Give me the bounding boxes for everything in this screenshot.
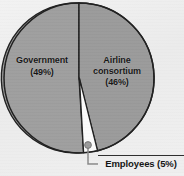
employees-dot-marker (85, 142, 92, 149)
slice-label-government-name: Government (9, 55, 75, 67)
slice-label-airline-consortium: Airline consortium (46%) (86, 55, 148, 88)
pie-chart-figure: Government (49%) Airline consortium (46%… (0, 0, 184, 176)
slice-label-airline-line1: Airline (86, 55, 148, 66)
slice-label-government-value: (49%) (9, 67, 75, 79)
slice-label-airline-value: (46%) (86, 77, 148, 88)
slice-label-airline-line2: consortium (86, 66, 148, 77)
pie-chart-svg (0, 0, 184, 176)
slice-callout-employees: Employees (5%) (98, 155, 184, 173)
slice-label-government: Government (49%) (9, 55, 75, 78)
